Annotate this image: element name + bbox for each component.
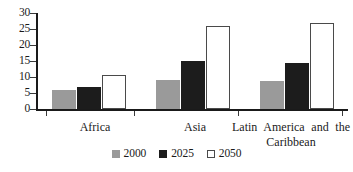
y-axis-tick-label: 0 [0, 103, 30, 115]
bar-latin-america-and-the-caribbean-2050 [310, 23, 334, 109]
x-axis-tick [46, 111, 47, 116]
y-axis-tick [30, 77, 36, 78]
x-axis-tick [238, 111, 239, 116]
legend-label: 2025 [171, 148, 194, 160]
y-axis-tick-label: 25 [0, 23, 30, 35]
bar-latin-america-and-the-caribbean-2000 [260, 81, 284, 109]
bar-asia-2050 [206, 26, 230, 109]
x-axis-category-label: Asia [148, 120, 242, 135]
y-axis-tick-label: 15 [0, 55, 30, 67]
legend-label: 2050 [219, 148, 242, 160]
plot-area: 051015202530 [0, 0, 353, 120]
chart-legend: 200020252050 [0, 148, 353, 160]
category-label-line: Latin America and the [232, 120, 350, 135]
y-axis-tick-label: 10 [0, 71, 30, 83]
legend-swatch-icon [159, 150, 167, 158]
legend-item-2050[interactable]: 2050 [207, 148, 242, 160]
legend-label: 2000 [124, 148, 147, 160]
bar-africa-2000 [52, 90, 76, 109]
category-label-line: Caribbean [232, 135, 350, 150]
bars-layer [38, 13, 348, 109]
y-axis-tick [30, 93, 36, 94]
bar-asia-2000 [156, 80, 180, 109]
bar-africa-2050 [102, 75, 126, 109]
y-axis-tick-label: 20 [0, 39, 30, 51]
x-axis-line [36, 109, 348, 111]
y-axis-tick [30, 109, 36, 110]
y-axis-tick [30, 29, 36, 30]
bar-africa-2025 [77, 87, 101, 109]
legend-item-2025[interactable]: 2025 [159, 148, 194, 160]
y-axis-tick-label: 5 [0, 87, 30, 99]
x-axis-category-label: Africa [40, 120, 150, 135]
bar-asia-2025 [181, 61, 205, 109]
y-axis-tick-label: 30 [0, 7, 30, 19]
y-axis-tick [30, 13, 36, 14]
y-axis-tick [30, 45, 36, 46]
y-axis-tick [30, 61, 36, 62]
x-axis-tick [134, 111, 135, 116]
legend-swatch-icon [207, 150, 215, 158]
bar-chart: 051015202530 AfricaAsiaLatin America and… [0, 0, 353, 172]
bar-latin-america-and-the-caribbean-2025 [285, 63, 309, 109]
legend-item-2000[interactable]: 2000 [112, 148, 147, 160]
x-axis-tick [342, 111, 343, 116]
legend-swatch-icon [112, 150, 120, 158]
x-axis-category-label: Latin America and theCaribbean [232, 120, 350, 149]
